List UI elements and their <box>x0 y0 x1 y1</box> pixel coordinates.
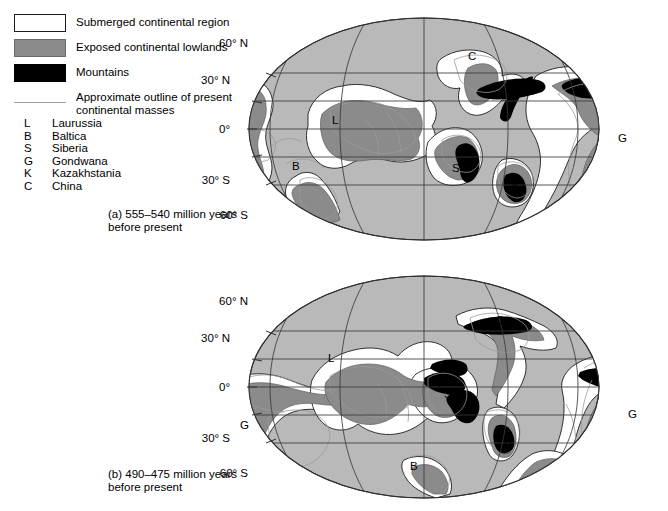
abbreviation-name: Siberia <box>52 142 88 155</box>
lat-label-30s-a: 30° S <box>202 174 231 186</box>
graticule-b <box>230 276 618 498</box>
abbreviation-row: L Laurussia <box>24 117 121 130</box>
lat-label-30n-b: 30° N <box>201 332 230 344</box>
lat-label-0-a: 0° <box>219 123 230 135</box>
abbreviation-code: B <box>24 130 52 143</box>
abbreviation-name: Gondwana <box>52 155 108 168</box>
abbreviation-row: B Baltica <box>24 130 121 143</box>
map-panel-a: 60° N 30° N 0° 30° S 60° S L B S K C G <box>180 14 668 250</box>
abbreviation-row: C China <box>24 180 121 193</box>
lat-label-0-b: 0° <box>219 381 230 393</box>
abbreviation-name: China <box>52 180 82 193</box>
map-panel-b: 60° N 30° N 0° 30° S 60° S L B S K C G G <box>180 272 668 508</box>
abbreviation-code: S <box>24 142 52 155</box>
landmass-label-gondwana-west-b: G <box>240 419 249 431</box>
lat-label-60s-a: 60° S <box>220 209 249 221</box>
landmass-label-baltica-b: B <box>410 460 418 472</box>
abbreviation-code: K <box>24 167 52 180</box>
landmass-label-china-b: C <box>496 314 504 326</box>
landmass-label-kazakhstania-a: K <box>512 180 520 192</box>
abbreviation-row: K Kazakhstania <box>24 167 121 180</box>
legend-label-mountains: Mountains <box>76 64 129 79</box>
abbreviation-row: G Gondwana <box>24 155 121 168</box>
landmass-label-siberia-b: S <box>444 388 452 400</box>
landmass-label-laurussia-b: L <box>328 352 335 364</box>
legend-swatch-mountains <box>14 64 66 82</box>
lat-label-60n-a: 60° N <box>219 37 248 49</box>
landmass-label-china-a: C <box>468 50 476 62</box>
abbreviation-name: Kazakhstania <box>52 167 121 180</box>
legend-swatch-exposed <box>14 39 66 57</box>
lat-label-60n-b: 60° N <box>219 295 248 307</box>
landmass-label-kazakhstania-b: K <box>504 434 512 446</box>
landmass-label-baltica-a: B <box>292 160 300 172</box>
legend-swatch-submerged <box>14 14 66 32</box>
abbreviation-name: Baltica <box>52 130 87 143</box>
legend-swatch-present-outline <box>14 89 66 107</box>
abbreviation-row: S Siberia <box>24 142 121 155</box>
lat-label-30s-b: 30° S <box>202 432 231 444</box>
abbreviation-list: L Laurussia B Baltica S Siberia G Gondwa… <box>24 117 121 193</box>
lat-label-60s-b: 60° S <box>220 467 249 479</box>
landmass-label-gondwana-east-b: G <box>628 408 637 420</box>
lat-label-30n-a: 30° N <box>201 74 230 86</box>
landmass-label-siberia-a: S <box>452 162 460 174</box>
landmass-label-gondwana-a: G <box>618 132 627 144</box>
graticule-a <box>230 18 618 240</box>
abbreviation-code: L <box>24 117 52 130</box>
abbreviation-code: G <box>24 155 52 168</box>
abbreviation-code: C <box>24 180 52 193</box>
abbreviation-name: Laurussia <box>52 117 102 130</box>
landmass-label-laurussia-a: L <box>332 114 339 126</box>
